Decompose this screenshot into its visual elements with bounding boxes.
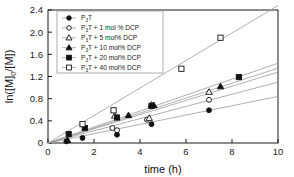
- data-point: [179, 66, 184, 71]
- y-axis-title-pre: ln([M]: [3, 76, 15, 104]
- legend: P3TP3T + 1 mol % DCPP3T + 5 mol% DCPP3T …: [57, 11, 163, 73]
- chart-canvas: 00.40.81.21.62.02.4 0246810 time (h) ln(…: [0, 0, 294, 177]
- y-tick-label: 2.4: [30, 4, 43, 15]
- data-point: [149, 122, 154, 127]
- legend-marker: [67, 65, 72, 70]
- y-tick-label: 0.4: [30, 115, 43, 126]
- y-tick-label: 0: [38, 137, 43, 148]
- data-point: [236, 74, 241, 79]
- x-tick-label: 8: [229, 146, 234, 157]
- data-point: [149, 103, 154, 108]
- legend-marker: [67, 26, 72, 31]
- y-tick-label: 1.2: [30, 71, 43, 82]
- x-tick-label: 2: [91, 146, 96, 157]
- figure-kinetic-plot: 00.40.81.21.62.02.4 0246810 time (h) ln(…: [0, 0, 294, 177]
- x-axis-title: time (h): [144, 163, 181, 175]
- x-tick-label: 4: [137, 146, 142, 157]
- legend-marker: [67, 16, 72, 21]
- data-point: [115, 128, 120, 133]
- data-point: [80, 136, 85, 141]
- data-point: [80, 122, 85, 127]
- data-point: [207, 97, 212, 102]
- y-axis-title: ln([M]0/[M]): [3, 50, 18, 104]
- data-point: [207, 108, 212, 113]
- x-tick-label: 0: [45, 146, 50, 157]
- data-point: [111, 108, 116, 113]
- legend-marker: [67, 55, 72, 60]
- y-tick-label: 2.0: [30, 27, 43, 38]
- data-point: [114, 115, 119, 120]
- data-point: [66, 132, 71, 137]
- y-tick-label: 0.8: [30, 93, 43, 104]
- y-axis-title-post: /[M]): [3, 50, 15, 72]
- svg-text:ln([M]0/[M]): ln([M]0/[M]): [3, 50, 18, 104]
- x-tick-label: 6: [183, 146, 188, 157]
- y-tick-label: 1.6: [30, 49, 43, 60]
- data-point: [218, 35, 223, 40]
- x-tick-label: 10: [273, 146, 284, 157]
